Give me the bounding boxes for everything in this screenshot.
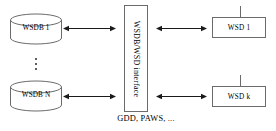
wsdb-wsd-interface-box: WSDB/WSD interface <box>124 5 148 112</box>
connector-wsdbn-to-interface <box>63 92 116 101</box>
connector-interface-to-wsdk <box>156 92 207 101</box>
antenna-icon <box>240 75 241 86</box>
database-wsdb-n: WSDB N <box>9 80 63 112</box>
architecture-diagram: WSDB 1 WSDB N WSDB/WSD interface <box>0 0 276 131</box>
connector-wsdb1-to-interface <box>63 24 116 33</box>
ellipsis-dot <box>35 58 37 60</box>
database-label: WSDB N <box>9 91 63 100</box>
interface-label: WSDB/WSD interface <box>132 20 141 97</box>
antenna-icon <box>240 6 241 17</box>
device-wsd-1: WSD 1 <box>212 17 266 38</box>
ellipsis-dot <box>35 63 37 65</box>
database-label: WSDB 1 <box>9 24 63 33</box>
database-wsdb-1: WSDB 1 <box>9 13 63 45</box>
device-wsd-k: WSD k <box>212 86 266 107</box>
vertical-ellipsis <box>30 55 42 75</box>
ellipsis-dot <box>35 68 37 70</box>
device-label: WSD k <box>213 87 265 106</box>
connector-interface-to-wsd1 <box>156 24 207 33</box>
device-label: WSD 1 <box>213 18 265 37</box>
diagram-caption: GDD, PAWS, ... <box>96 114 196 123</box>
